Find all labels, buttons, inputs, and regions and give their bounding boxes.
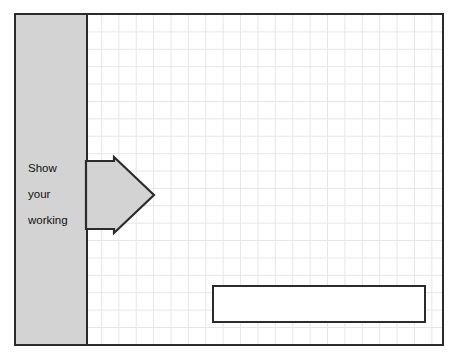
worksheet-canvas: Show your working [0,0,459,361]
worksheet-frame: Show your working [14,13,444,346]
answer-rectangle[interactable] [212,285,426,323]
instruction-line-3: working [28,207,94,233]
instruction-line-2: your [28,181,94,207]
instruction-text: Show your working [28,155,94,233]
instruction-line-1: Show [28,155,94,181]
instruction-panel: Show your working [16,15,88,344]
